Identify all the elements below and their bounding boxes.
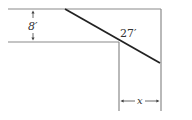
corridor-diagram: 8′ 27′ x — [0, 0, 192, 120]
ladder-length-label: 27′ — [120, 27, 137, 40]
diagram-svg: 8′ 27′ x — [0, 0, 192, 120]
corridor-width-label: 8′ — [28, 20, 38, 33]
unknown-width-label: x — [137, 95, 143, 106]
ladder-line — [65, 9, 160, 63]
